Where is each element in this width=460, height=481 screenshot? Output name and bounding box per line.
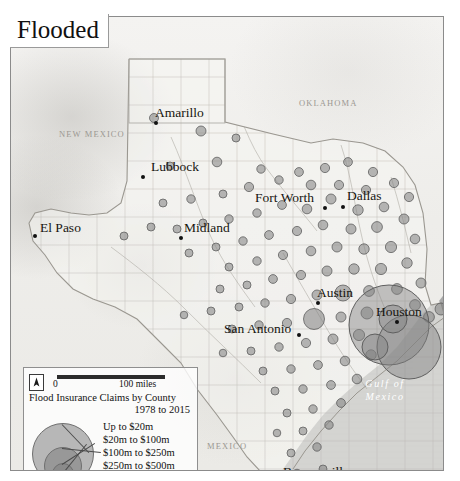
claim-circle — [278, 250, 287, 259]
claim-circle — [180, 311, 188, 319]
claim-circle — [253, 257, 261, 265]
claim-circle — [275, 343, 283, 351]
claim-circle — [253, 209, 261, 217]
claim-circle — [410, 234, 420, 244]
claim-circle — [295, 168, 304, 177]
claim-circle — [216, 285, 224, 293]
claim-circle — [361, 185, 370, 194]
claim-circle — [212, 157, 222, 167]
claim-circle — [269, 275, 278, 284]
claim-circle — [328, 334, 338, 344]
claim-circle — [247, 347, 255, 355]
legend-class-label: $100m to $250m — [103, 447, 175, 459]
claim-circle — [337, 399, 346, 408]
claim-circle — [278, 201, 287, 210]
claim-circle — [199, 219, 207, 227]
scale-row: 0 100 miles — [29, 372, 192, 391]
legend-class-label: $20m to $100m — [103, 434, 170, 446]
claim-circle — [228, 325, 236, 333]
claim-circle — [375, 263, 386, 274]
claim-circle — [185, 249, 193, 257]
north-arrow-icon — [29, 374, 44, 391]
claim-circle — [335, 285, 351, 301]
scale-bar: 0 100 miles — [47, 374, 192, 391]
claim-circle — [219, 349, 227, 357]
claim-circle — [306, 246, 316, 256]
claim-circle — [314, 361, 323, 370]
claim-circle — [346, 224, 356, 234]
legend-title-line2: 1978 to 2015 — [29, 404, 192, 416]
claim-circle — [349, 264, 359, 274]
city-marker-amarillo — [154, 121, 158, 125]
claim-circle — [235, 303, 243, 311]
claim-circle — [147, 223, 155, 231]
claim-circle — [318, 220, 328, 230]
claim-circle — [389, 178, 398, 187]
claim-circle — [225, 263, 233, 271]
claim-circle — [399, 214, 409, 224]
claim-circle — [265, 231, 274, 240]
claim-circle — [322, 266, 332, 276]
claim-circle — [372, 222, 383, 233]
claim-circle — [332, 242, 342, 252]
claim-circle — [166, 162, 174, 170]
claim-circle — [379, 202, 389, 212]
claim-circle — [368, 167, 377, 176]
city-marker-san-antonio — [297, 333, 301, 337]
claim-circle — [302, 204, 312, 214]
claim-circle — [353, 205, 363, 215]
claim-circle — [334, 180, 343, 189]
claim-circle — [296, 270, 305, 279]
city-marker-el-paso — [33, 234, 37, 238]
legend-title: Flood Insurance Claims by County 1978 to… — [29, 392, 192, 416]
city-marker-dallas — [341, 205, 345, 209]
claim-circle — [207, 307, 215, 315]
map-canvas[interactable]: AmarilloLubbockMidlandEl PasoFort WorthD… — [10, 16, 444, 471]
city-marker-austin — [316, 301, 320, 305]
claim-circle — [225, 215, 233, 223]
claim-circle — [286, 294, 295, 303]
claim-circle — [385, 241, 396, 252]
claim-circle — [319, 465, 327, 471]
claim-circle — [243, 281, 251, 289]
claim-circle — [120, 232, 128, 240]
claim-circle — [416, 278, 426, 288]
claim-circle — [326, 194, 336, 204]
claim-circle — [287, 365, 295, 373]
legend-title-line1: Flood Insurance Claims by County — [29, 392, 176, 403]
scale-end-label: 100 miles — [119, 379, 156, 389]
claim-circle-houston-inner — [379, 305, 407, 333]
claim-circle — [344, 158, 353, 167]
claim-circle — [187, 195, 195, 203]
map-page: AmarilloLubbockMidlandEl PasoFort WorthD… — [0, 0, 460, 481]
claim-circle — [232, 134, 240, 142]
claim-circle — [244, 182, 253, 191]
claim-circle — [336, 312, 346, 322]
legend-class-label: $250m to $500m — [103, 460, 175, 471]
claim-circle — [173, 225, 181, 233]
claim-circle — [359, 244, 369, 254]
city-marker-houston — [395, 320, 399, 324]
city-marker-midland — [179, 236, 183, 240]
claim-circle — [271, 387, 279, 395]
legend-class-label: Up to $20m — [103, 421, 153, 433]
claim-circle — [239, 237, 247, 245]
claim-circle — [299, 385, 307, 393]
claim-circle — [402, 258, 412, 268]
claim-circle — [352, 374, 362, 384]
claim-circle — [219, 190, 227, 198]
claim-circle — [404, 192, 413, 201]
claim-circle — [259, 367, 267, 375]
claim-circle — [275, 176, 283, 184]
claim-circle — [196, 126, 206, 136]
claim-circle — [340, 356, 350, 366]
claim-circle — [292, 226, 301, 235]
legend-symbols: Up to $20m$20m to $100m$100m to $250m$25… — [29, 417, 192, 471]
claim-circle — [435, 303, 444, 315]
claim-circle — [283, 409, 291, 417]
claim-circle — [257, 165, 265, 173]
claim-circle — [306, 180, 316, 190]
claim-circle — [282, 318, 291, 327]
claim-circle — [301, 338, 310, 347]
claim-circle — [309, 405, 317, 413]
